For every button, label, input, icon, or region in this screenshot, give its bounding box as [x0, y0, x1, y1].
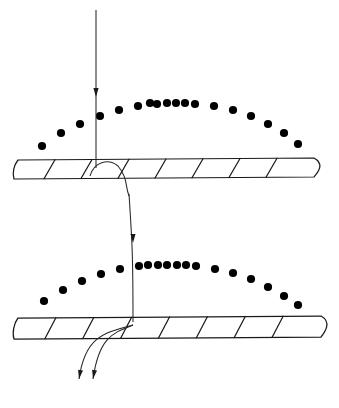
arc-dot — [78, 277, 86, 285]
arc-dot — [163, 261, 171, 269]
arc-dot — [181, 99, 189, 107]
arc-dot — [280, 129, 288, 137]
arc-dot — [115, 106, 123, 114]
arc-dot — [210, 102, 218, 110]
lower-dotted-arc — [40, 261, 302, 309]
arc-dot — [116, 265, 124, 273]
arc-dot — [211, 265, 219, 273]
arc-dot — [280, 292, 288, 300]
upper-hatched-band — [13, 158, 320, 179]
arc-dot — [191, 100, 199, 108]
diagram-canvas — [0, 0, 339, 408]
arc-dot — [154, 261, 162, 269]
arc-dot — [146, 99, 154, 107]
transfer-ray-descent — [129, 194, 133, 322]
arc-dot — [134, 102, 142, 110]
inter-band-transfer-ray — [90, 162, 136, 322]
arc-dot — [40, 297, 48, 305]
arc-dot — [229, 106, 237, 114]
arc-dot — [96, 112, 104, 120]
diagram-svg — [0, 0, 339, 408]
arc-dot — [144, 261, 152, 269]
arc-dot — [294, 140, 302, 148]
arc-dot — [264, 283, 272, 291]
arc-dot — [59, 286, 67, 294]
arc-dot — [229, 269, 237, 277]
arc-dot — [38, 142, 46, 150]
arc-dot — [192, 262, 200, 270]
arc-dot — [173, 261, 181, 269]
arc-dot — [97, 270, 105, 278]
lower-band-outline — [13, 316, 327, 339]
arc-dot — [57, 129, 65, 137]
arc-dot — [264, 120, 272, 128]
incoming-vertical-ray — [93, 10, 98, 168]
upper-band-outline — [13, 158, 320, 179]
arc-dot — [294, 301, 302, 309]
arc-dot — [247, 112, 255, 120]
incoming-ray-arrowhead — [93, 88, 98, 97]
arc-dot — [76, 120, 84, 128]
arc-dot — [135, 262, 143, 270]
upper-dotted-arc — [38, 99, 302, 150]
arc-dot — [247, 275, 255, 283]
lower-hatched-band — [13, 316, 327, 339]
arc-dot — [182, 261, 190, 269]
arc-dot — [163, 99, 171, 107]
arc-dot — [172, 99, 180, 107]
arc-dot — [153, 100, 161, 108]
